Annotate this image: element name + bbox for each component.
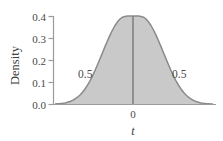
area-label-right: 0.5 [172, 68, 186, 80]
density-chart-figure: Density 0.4 0.3 0.2 0.1 0.0 0 t 0.5 0.5 [0, 0, 223, 141]
y-tick-label-0.2: 0.2 [20, 55, 46, 67]
y-tick-label-0.3: 0.3 [20, 33, 46, 45]
y-tick-label-0.0: 0.0 [20, 99, 46, 111]
y-axis-ticks [49, 17, 54, 105]
x-axis-title: t [123, 124, 143, 139]
area-label-left: 0.5 [78, 68, 92, 80]
y-tick-label-0.4: 0.4 [20, 11, 46, 23]
density-area-fill [55, 16, 213, 104]
x-tick-label-0: 0 [123, 108, 143, 120]
y-tick-label-0.1: 0.1 [20, 77, 46, 89]
